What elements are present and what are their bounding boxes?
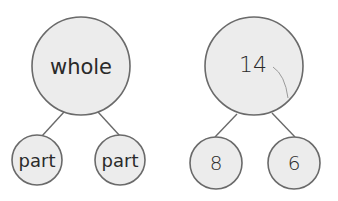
example-number-bond: 14 8 6 <box>190 17 320 189</box>
part-label-right: part <box>102 150 139 171</box>
generic-number-bond: whole part part <box>12 17 145 185</box>
part-label-left: part <box>19 150 56 171</box>
part-value-right: 6 <box>288 151 301 175</box>
part-value-left: 8 <box>210 151 223 175</box>
connector-right <box>98 112 120 136</box>
connector-left <box>42 112 64 136</box>
whole-label: whole <box>50 55 112 79</box>
connector-left <box>215 114 237 137</box>
whole-value: 14 <box>239 52 267 77</box>
connector-right <box>272 113 295 137</box>
number-bond-diagrams: whole part part 14 8 6 <box>0 0 338 201</box>
